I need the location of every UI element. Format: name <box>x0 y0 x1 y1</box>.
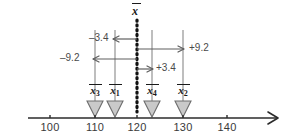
axis-tick-label-120: 120 <box>117 121 157 133</box>
marker-triangle-x3 <box>87 101 103 117</box>
deviation-label-pos-9-2: +9.2 <box>189 42 209 53</box>
deviation-label-neg-9-2: –9.2 <box>60 52 79 63</box>
deviation-label-neg-3-4: –3.4 <box>89 32 108 43</box>
arrow-neg-3-4 <box>113 36 137 42</box>
axis-tick-label-100: 100 <box>30 121 70 133</box>
axis-tick-label-110: 110 <box>75 121 115 133</box>
group-subscript-x2: 2 <box>184 89 188 98</box>
group-label-x2: x2 <box>172 84 194 99</box>
grand-mean-label: x <box>132 3 141 19</box>
group-label-x1: x1 <box>104 84 126 99</box>
arrow-pos-3-4 <box>137 66 153 72</box>
group-subscript-x1: 1 <box>116 89 120 98</box>
grand-mean-symbol: x <box>132 4 138 18</box>
group-subscript-x4: 4 <box>153 89 157 98</box>
figure-canvas <box>0 0 287 138</box>
group-mean-markers <box>87 101 191 117</box>
marker-triangle-x2 <box>175 101 191 117</box>
group-label-x3: x3 <box>84 84 106 99</box>
marker-triangle-x4 <box>144 101 160 117</box>
anova-deviation-number-line-figure: x x3 x1 x4 x2 –3.4 –9.2 +3.4 +9.2 100 11… <box>0 0 287 138</box>
deviation-label-pos-3-4: +3.4 <box>156 62 176 73</box>
marker-triangle-x1 <box>107 101 123 117</box>
axis-tick-label-140: 140 <box>207 121 247 133</box>
arrow-pos-9-2 <box>137 46 184 52</box>
group-label-x4: x4 <box>141 84 163 99</box>
axis-tick-label-130: 130 <box>163 121 203 133</box>
group-subscript-x3: 3 <box>96 89 100 98</box>
